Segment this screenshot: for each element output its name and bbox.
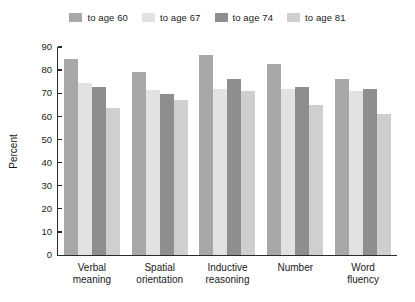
x-axis-category-label: Number	[277, 262, 313, 274]
legend-item: to age 74	[215, 13, 274, 23]
legend-swatch-icon	[287, 13, 300, 22]
legend-item-label: to age 60	[87, 13, 128, 23]
bar-chart: to age 60to age 67to age 74to age 81 Per…	[0, 0, 415, 302]
bar	[64, 59, 78, 255]
legend-swatch-icon	[215, 13, 228, 22]
legend-item-label: to age 67	[160, 13, 201, 23]
x-axis-category-label: Wordfluency	[347, 262, 379, 286]
bar	[160, 94, 174, 255]
y-axis-title-text: Percent	[8, 134, 19, 168]
x-axis-category-line: Word	[347, 262, 379, 274]
plot-area: 0102030405060708090 VerbalmeaningSpatial…	[57, 47, 397, 256]
x-axis-category-line: Spatial	[136, 262, 183, 274]
x-axis-category-line: fluency	[347, 274, 379, 286]
bar	[241, 91, 255, 255]
y-axis-tick-label: 10	[41, 227, 58, 237]
legend-item-label: to age 74	[233, 13, 274, 23]
bar	[78, 83, 92, 255]
bar	[267, 64, 281, 255]
bar-group: Spatialorientation	[132, 47, 188, 255]
x-axis-category-line: meaning	[73, 274, 111, 286]
bar	[335, 79, 349, 255]
y-axis-tick-label: 90	[41, 42, 58, 52]
y-axis-tick-label: 70	[41, 88, 58, 98]
x-axis-category-label: Spatialorientation	[136, 262, 183, 286]
x-axis-category-line: Inductive	[206, 262, 250, 274]
legend-item-label: to age 81	[305, 13, 346, 23]
x-axis-category-line: Number	[277, 262, 313, 274]
bar	[363, 89, 377, 255]
bar-group: Wordfluency	[335, 47, 391, 255]
x-axis-category-line: orientation	[136, 274, 183, 286]
legend-swatch-icon	[69, 13, 82, 22]
x-axis-category-label: Inductivereasoning	[206, 262, 250, 286]
x-axis-category-line: Verbal	[73, 262, 111, 274]
bar	[377, 114, 391, 255]
bar-group: Inductivereasoning	[199, 47, 255, 255]
bar	[309, 105, 323, 255]
bar-group: Number	[267, 47, 323, 255]
chart-legend: to age 60to age 67to age 74to age 81	[0, 13, 415, 23]
bar	[213, 89, 227, 255]
y-axis-tick-label: 60	[41, 112, 58, 122]
y-axis-tick-label: 0	[47, 250, 58, 260]
bar	[106, 108, 120, 255]
y-axis-tick-label: 30	[41, 181, 58, 191]
bar	[199, 55, 213, 255]
bar	[174, 100, 188, 255]
legend-swatch-icon	[142, 13, 155, 22]
x-axis-category-line: reasoning	[206, 274, 250, 286]
legend-item: to age 81	[287, 13, 346, 23]
bar-group: Verbalmeaning	[64, 47, 120, 255]
y-axis-tick-label: 80	[41, 65, 58, 75]
y-axis-tick-label: 50	[41, 135, 58, 145]
bar	[281, 89, 295, 255]
y-axis-title: Percent	[6, 47, 20, 256]
x-axis-category-label: Verbalmeaning	[73, 262, 111, 286]
bar	[295, 87, 309, 255]
legend-item: to age 60	[69, 13, 128, 23]
bar-groups: VerbalmeaningSpatialorientationInductive…	[58, 47, 397, 255]
y-axis-tick-label: 40	[41, 158, 58, 168]
legend-item: to age 67	[142, 13, 201, 23]
y-axis-tick-label: 20	[41, 204, 58, 214]
bar	[132, 72, 146, 255]
bar	[146, 90, 160, 255]
bar	[349, 91, 363, 255]
bar	[92, 87, 106, 255]
bar	[227, 79, 241, 255]
